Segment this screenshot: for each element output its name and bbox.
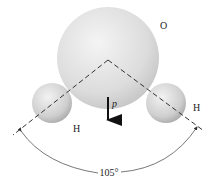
angle-label: 105° — [100, 167, 119, 178]
hydrogen-right-label: H — [193, 102, 200, 113]
water-molecule-diagram: O H H p 105° — [0, 0, 219, 190]
angle-arc-left — [21, 131, 98, 173]
dipole-label: p — [111, 98, 117, 109]
angle-arc-right — [121, 127, 197, 172]
hydrogen-left-label: H — [73, 123, 80, 134]
hydrogen-left-atom — [32, 83, 72, 123]
oxygen-label: O — [160, 20, 167, 31]
oxygen-atom — [57, 7, 159, 109]
